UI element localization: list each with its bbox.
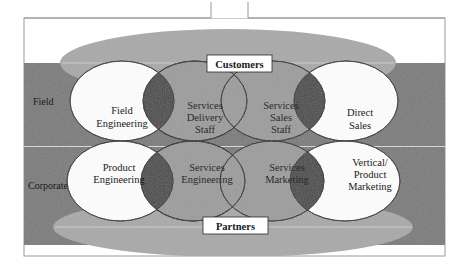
svg-text:Services: Services	[189, 162, 225, 173]
services-marketing-label: Services Marketing	[265, 162, 309, 185]
row-label-field: Field	[33, 96, 54, 107]
svg-text:Marketing: Marketing	[265, 174, 309, 185]
partners-label-box: Partners	[203, 217, 268, 234]
row-label-corporate: Corporate	[28, 180, 69, 191]
partners-label: Partners	[216, 221, 255, 232]
svg-text:Delivery: Delivery	[187, 112, 224, 123]
svg-text:Vertical/: Vertical/	[352, 157, 388, 168]
svg-text:Services: Services	[187, 100, 223, 111]
customers-label: Customers	[215, 59, 263, 70]
svg-text:Engineering: Engineering	[96, 118, 148, 129]
svg-text:Staff: Staff	[195, 124, 216, 135]
svg-text:Services: Services	[269, 162, 305, 173]
svg-text:Field: Field	[111, 105, 133, 116]
svg-text:Staff: Staff	[271, 124, 292, 135]
diagram-canvas: Field Corporate Customers Partners Field…	[0, 0, 470, 268]
svg-text:Sales: Sales	[349, 120, 371, 131]
customers-label-box: Customers	[207, 55, 272, 72]
svg-text:Engineering: Engineering	[181, 174, 233, 185]
svg-text:Sales: Sales	[270, 112, 292, 123]
vertical-product-marketing-label: Vertical/ Product Marketing	[348, 157, 392, 192]
svg-text:Product: Product	[103, 162, 136, 173]
svg-text:Services: Services	[263, 100, 299, 111]
svg-text:Direct: Direct	[347, 107, 373, 118]
svg-text:Product: Product	[354, 169, 387, 180]
svg-text:Engineering: Engineering	[93, 174, 145, 185]
svg-text:Marketing: Marketing	[348, 181, 392, 192]
